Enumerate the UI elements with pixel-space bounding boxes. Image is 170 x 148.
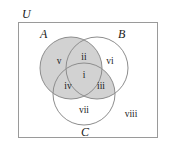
set-label-a: A	[39, 27, 48, 41]
set-label-c: C	[81, 125, 90, 139]
venn-diagram-figure: U A B C v ii vi i iv iii vii viii	[0, 0, 170, 148]
region-label-viii: viii	[125, 109, 138, 119]
region-label-ii: ii	[81, 52, 87, 62]
region-label-vii: vii	[79, 105, 89, 115]
region-label-iv: iv	[64, 81, 72, 91]
set-label-b: B	[118, 27, 126, 41]
region-label-i: i	[83, 70, 86, 80]
region-label-vi: vi	[106, 56, 114, 66]
region-label-iii: iii	[97, 81, 105, 91]
region-label-v: v	[57, 56, 62, 66]
universe-label: U	[22, 7, 32, 21]
venn-diagram-canvas: U A B C v ii vi i iv iii vii viii	[0, 0, 170, 148]
